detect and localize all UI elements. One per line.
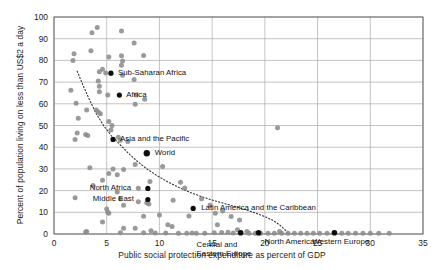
aggregate-point (145, 197, 150, 202)
data-point (170, 224, 175, 229)
data-point (219, 230, 224, 235)
y-axis-tick: 30 (28, 164, 48, 174)
data-point (317, 231, 322, 236)
data-point (275, 125, 280, 130)
data-point (176, 231, 181, 236)
data-point (76, 116, 81, 121)
data-point (133, 162, 138, 167)
data-point (103, 70, 108, 75)
data-point (171, 198, 176, 203)
aggregate-point-label: Latin America and the Caribbean (201, 203, 316, 212)
data-point (97, 84, 102, 89)
data-point (199, 196, 204, 201)
aggregate-point-label: Sub-Saharan Africa (118, 68, 186, 77)
data-point (106, 211, 111, 216)
aggregate-point-label: Eastern Europe (197, 249, 252, 258)
data-point (190, 230, 195, 235)
data-point (182, 186, 187, 191)
data-point (298, 231, 303, 236)
data-point (229, 214, 234, 219)
data-point (119, 53, 124, 58)
aggregate-point (110, 137, 115, 142)
aggregate-point-label: Western Europe (312, 237, 369, 246)
data-point (160, 164, 165, 169)
y-axis-title: Percent of population living on less tha… (15, 1, 25, 249)
data-point (225, 230, 230, 235)
plot-area (0, 0, 444, 270)
data-point (346, 231, 351, 236)
data-point (100, 178, 105, 183)
y-axis-tick: 10 (28, 207, 48, 217)
data-point (100, 220, 105, 225)
data-point (85, 133, 90, 138)
aggregate-point-label: Central and (197, 240, 238, 249)
data-point (83, 230, 88, 235)
y-axis-tick: 100 (28, 12, 48, 22)
data-point (376, 231, 381, 236)
aggregate-point (145, 186, 150, 191)
data-point (311, 231, 316, 236)
y-axis-tick: 60 (28, 99, 48, 109)
aggregate-point-label: North Africa (90, 183, 131, 192)
data-point (215, 222, 220, 227)
data-point (292, 231, 297, 236)
data-point (146, 202, 151, 207)
data-point (88, 48, 93, 53)
data-point (279, 231, 284, 236)
data-point (153, 230, 158, 235)
data-point (157, 213, 162, 218)
data-point (106, 171, 111, 176)
data-point (237, 217, 242, 222)
data-point (272, 231, 277, 236)
data-point (97, 89, 102, 94)
data-point (84, 108, 89, 113)
y-axis-tick: 90 (28, 34, 48, 44)
data-point (89, 30, 94, 35)
data-point (325, 231, 330, 236)
data-point (163, 230, 168, 235)
data-point (136, 199, 141, 204)
aggregate-point-label: Middle East (93, 194, 134, 203)
aggregate-point (332, 230, 338, 236)
data-point (98, 111, 103, 116)
aggregate-point-label: Africa (126, 90, 146, 99)
y-axis-tick: 20 (28, 186, 48, 196)
data-point (121, 226, 126, 231)
x-axis-tick: 35 (413, 238, 433, 248)
y-axis-tick: 40 (28, 142, 48, 152)
data-point (109, 123, 114, 128)
data-point (105, 93, 110, 98)
aggregate-point-label: North America (265, 237, 315, 246)
data-point (141, 53, 146, 58)
data-point (118, 230, 123, 235)
y-axis-tick: 50 (28, 121, 48, 131)
data-point (141, 230, 146, 235)
aggregate-point-label: Asia and the Pacific (120, 134, 189, 143)
data-point (368, 231, 373, 236)
aggregate-point (144, 150, 150, 156)
aggregate-point (108, 71, 113, 76)
data-point (266, 231, 271, 236)
data-point (108, 128, 113, 133)
aggregate-point (256, 230, 262, 236)
scatter-chart: Public social protection expenditure as … (0, 0, 444, 270)
data-point (353, 231, 358, 236)
data-point (186, 213, 191, 218)
data-point (132, 77, 137, 82)
aggregate-point (191, 206, 196, 211)
data-point (387, 231, 392, 236)
data-point (111, 166, 116, 171)
data-point (178, 180, 183, 185)
data-point (202, 231, 207, 236)
x-axis-tick: 0 (44, 238, 64, 248)
data-point (119, 28, 124, 33)
data-point (244, 229, 249, 234)
data-point (132, 41, 137, 46)
aggregate-point-label: World (155, 148, 175, 157)
data-point (97, 69, 102, 74)
data-point (141, 214, 146, 219)
aggregate-point (117, 93, 122, 98)
data-point (133, 102, 138, 107)
data-point (68, 88, 73, 93)
data-point (133, 226, 138, 231)
